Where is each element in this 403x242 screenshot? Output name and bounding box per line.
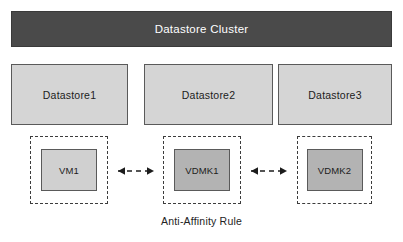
- double-arrow-icon: [241, 162, 296, 180]
- double-arrow-icon: [108, 162, 163, 180]
- node-box-vm1: VM1: [41, 149, 97, 191]
- anti-affinity-link-1: [108, 162, 163, 180]
- datastore-cluster-diagram: Datastore Cluster Datastore1 Datastore2 …: [0, 0, 403, 242]
- datastore-box-3-label: Datastore3: [308, 89, 361, 101]
- datastore-box-3: Datastore3: [278, 64, 392, 125]
- datastore-box-2-label: Datastore2: [182, 89, 235, 101]
- datastore-cluster-label: Datastore Cluster: [155, 23, 249, 35]
- diagram-caption: Anti-Affinity Rule: [0, 215, 403, 227]
- anti-affinity-group-3: VDMK2: [297, 136, 372, 204]
- node-box-vdmk2-label: VDMK2: [318, 165, 352, 176]
- node-box-vdmk1: VDMK1: [174, 149, 230, 191]
- node-box-vdmk2: VDMK2: [307, 149, 363, 191]
- datastore-box-1-label: Datastore1: [43, 89, 96, 101]
- datastore-box-1: Datastore1: [11, 64, 128, 125]
- datastore-box-2: Datastore2: [144, 64, 273, 125]
- anti-affinity-group-2: VDMK1: [163, 136, 241, 204]
- anti-affinity-group-1: VM1: [30, 136, 108, 204]
- node-box-vdmk1-label: VDMK1: [185, 165, 219, 176]
- datastore-cluster-bar: Datastore Cluster: [11, 11, 392, 47]
- node-box-vm1-label: VM1: [59, 165, 79, 176]
- anti-affinity-link-2: [241, 162, 296, 180]
